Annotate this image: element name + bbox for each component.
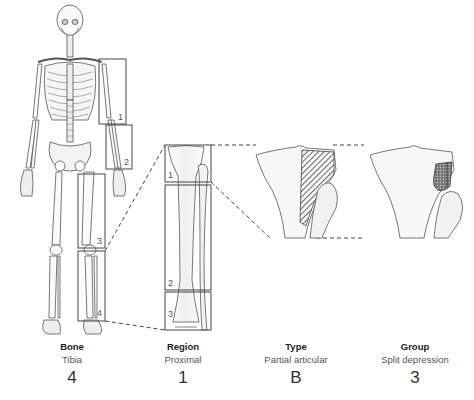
label-type-title: Type: [241, 341, 351, 353]
diagram-canvas: [0, 0, 474, 400]
tibia-segment-1-number: 1: [168, 170, 173, 180]
label-bone-title: Bone: [17, 341, 127, 353]
label-group: Group Split depression 3: [360, 341, 470, 389]
label-region-title: Region: [128, 341, 238, 353]
skeleton-box-4-number: 4: [97, 308, 102, 318]
label-group-title: Group: [360, 341, 470, 353]
skeleton-box-1-number: 1: [118, 112, 123, 122]
stippled-depressed-fragment: [434, 162, 453, 191]
label-region-code: 1: [128, 367, 238, 389]
label-type-value: Partial articular: [241, 353, 351, 366]
label-region: Region Proximal 1: [128, 341, 238, 389]
skeleton-box-3-number: 3: [97, 236, 102, 246]
label-bone-value: Tibia: [17, 353, 127, 366]
label-bone-code: 4: [17, 367, 127, 389]
label-group-value: Split depression: [360, 353, 470, 366]
tibia-segment-2-number: 2: [168, 278, 173, 288]
label-bone: Bone Tibia 4: [17, 341, 127, 389]
tibia-segment-3-number: 3: [168, 309, 173, 319]
detail-view-split-depression: [370, 146, 463, 238]
tibia-fibula-illustration: [168, 146, 208, 331]
detail-view-split: [256, 146, 337, 238]
label-region-value: Proximal: [128, 353, 238, 366]
label-group-code: 3: [360, 367, 470, 389]
label-type: Type Partial articular B: [241, 341, 351, 389]
label-type-code: B: [241, 367, 351, 389]
skeleton-box-2-number: 2: [124, 157, 129, 167]
